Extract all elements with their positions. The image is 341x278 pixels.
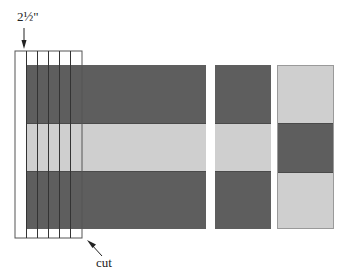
cut-arrow-icon xyxy=(87,240,102,256)
cut-label: cut xyxy=(96,256,112,269)
strip-width-label: 2½" xyxy=(17,10,39,23)
strip-cut-lines xyxy=(27,51,71,238)
quilt-strip-diagram: 2½" cut xyxy=(0,0,341,278)
annotation-overlay xyxy=(0,0,341,278)
strip-width-arrow-icon xyxy=(22,28,27,49)
